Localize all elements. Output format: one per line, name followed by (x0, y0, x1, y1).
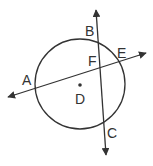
center-dot-D (78, 83, 82, 87)
line-BC (96, 10, 106, 155)
geometry-diagram: A B E F D C (0, 0, 153, 166)
label-C: C (107, 125, 117, 141)
label-F: F (88, 53, 97, 69)
label-A: A (22, 72, 32, 88)
label-B: B (85, 23, 94, 39)
label-E: E (117, 45, 126, 61)
label-D: D (75, 91, 85, 107)
